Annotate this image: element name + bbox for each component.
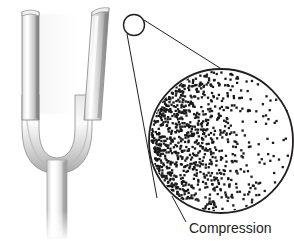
air-particle — [179, 147, 181, 149]
air-particle — [231, 85, 233, 87]
air-particle — [171, 182, 173, 184]
air-particle — [224, 165, 226, 167]
air-particle — [209, 159, 211, 161]
figure-canvas: Compression — [0, 0, 294, 241]
air-particle — [249, 187, 251, 189]
air-particle — [230, 179, 232, 181]
air-particle — [236, 191, 238, 193]
air-particle — [172, 101, 174, 103]
compression-label: Compression — [189, 220, 271, 236]
air-particle — [215, 164, 217, 166]
air-particle — [273, 155, 275, 157]
air-particle — [205, 167, 207, 169]
air-particle — [187, 141, 189, 143]
air-particle — [158, 136, 160, 138]
air-particle — [247, 170, 249, 172]
air-particle — [191, 125, 193, 127]
right-tine — [84, 8, 109, 120]
air-particle — [192, 82, 194, 84]
air-particle — [267, 118, 269, 120]
air-particle — [255, 121, 257, 123]
air-particle — [184, 141, 186, 143]
air-particle — [213, 179, 215, 181]
air-particle — [206, 128, 208, 130]
air-particle — [227, 200, 229, 202]
air-particle — [236, 143, 238, 145]
air-particle — [205, 120, 207, 122]
air-particle — [226, 118, 228, 120]
air-particle — [185, 171, 187, 173]
air-particle — [174, 115, 176, 117]
air-particle — [167, 116, 169, 118]
air-particle — [169, 137, 171, 139]
air-particle — [221, 100, 223, 102]
air-particle — [209, 108, 211, 110]
air-particle — [184, 166, 186, 168]
air-particle — [213, 203, 215, 205]
air-particle — [185, 100, 187, 102]
air-particle — [209, 175, 211, 177]
air-particle — [165, 104, 167, 106]
air-particle — [197, 91, 199, 93]
air-particle — [190, 163, 192, 165]
air-particle — [180, 106, 182, 108]
air-particle — [210, 132, 212, 134]
air-particle — [202, 93, 204, 95]
air-particle — [263, 163, 265, 165]
air-particle — [158, 144, 160, 146]
air-particle — [156, 140, 158, 142]
air-particle — [160, 161, 162, 163]
air-particle — [213, 133, 215, 135]
air-particle — [210, 83, 212, 85]
air-particle — [187, 124, 189, 126]
air-particle — [223, 109, 225, 111]
air-particle — [175, 131, 177, 133]
air-particle — [262, 115, 264, 117]
air-particle — [151, 136, 153, 138]
air-particle — [184, 184, 186, 186]
air-particle — [200, 163, 202, 165]
air-particle — [227, 197, 229, 199]
air-particle — [155, 165, 157, 167]
air-particle — [213, 72, 215, 74]
air-particle — [269, 109, 271, 111]
air-particle — [170, 133, 172, 135]
air-particle — [201, 122, 203, 124]
air-particle — [212, 95, 214, 97]
air-particle — [158, 169, 160, 171]
air-particle — [241, 108, 243, 110]
air-particle — [221, 136, 223, 138]
air-particle — [195, 114, 197, 116]
air-particle — [156, 159, 158, 161]
air-particle — [220, 131, 222, 133]
air-particle — [223, 173, 225, 175]
air-particle — [208, 143, 210, 145]
air-particle — [189, 102, 191, 104]
air-particle — [182, 189, 184, 191]
air-particle — [178, 110, 180, 112]
air-particle — [161, 169, 163, 171]
air-particle — [235, 186, 237, 188]
air-particle — [180, 194, 182, 196]
air-particle — [181, 111, 183, 113]
air-particle — [218, 150, 220, 152]
air-particle — [156, 133, 158, 135]
air-particle — [208, 208, 210, 210]
air-particle — [184, 95, 186, 97]
left-tine-highlight — [26, 16, 29, 118]
air-particle — [203, 91, 205, 93]
air-particle — [165, 159, 167, 161]
air-particle — [176, 113, 178, 115]
air-particle — [163, 164, 165, 166]
air-particle — [171, 139, 173, 141]
air-particle — [169, 108, 171, 110]
air-particle — [168, 101, 170, 103]
air-particle — [182, 98, 184, 100]
air-particle — [207, 103, 209, 105]
air-particle — [210, 151, 212, 153]
air-particle — [208, 202, 210, 204]
air-particle — [212, 207, 214, 209]
air-particle — [193, 95, 195, 97]
air-particle — [215, 149, 217, 151]
air-particle — [234, 154, 236, 156]
